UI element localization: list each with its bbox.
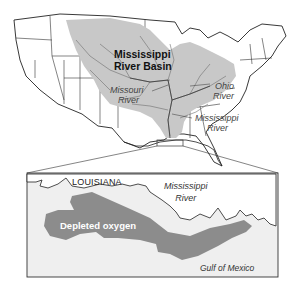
missouri-label-line2: River xyxy=(110,95,144,105)
mississippi-river-label: Mississippi River xyxy=(195,113,239,133)
inset-mississippi-river-label: Mississippi River xyxy=(164,180,208,204)
ohio-river-label: Ohio River xyxy=(213,81,234,101)
inset-river-line1: Mississippi xyxy=(164,180,208,192)
gulf-of-mexico-label: Gulf of Mexico xyxy=(200,264,254,273)
missouri-label-line1: Missouri xyxy=(110,85,144,95)
inset-connector-left xyxy=(27,146,157,173)
mississippi-label-line1: Mississippi xyxy=(195,113,239,123)
ohio-label-line1: Ohio xyxy=(213,81,234,91)
basin-title-line1: Mississippi xyxy=(114,48,172,60)
inset-river-line2: River xyxy=(164,192,208,204)
louisiana-label: LOUISIANA xyxy=(72,178,122,187)
inset-connector-right xyxy=(183,146,278,173)
missouri-river-label: Missouri River xyxy=(110,85,144,105)
depleted-oxygen-label: Depleted oxygen xyxy=(60,221,136,231)
map-canvas xyxy=(0,0,301,291)
basin-title: Mississippi River Basin xyxy=(114,48,172,72)
ohio-label-line2: River xyxy=(213,91,234,101)
basin-title-line2: River Basin xyxy=(114,60,172,72)
mississippi-label-line2: River xyxy=(195,123,239,133)
